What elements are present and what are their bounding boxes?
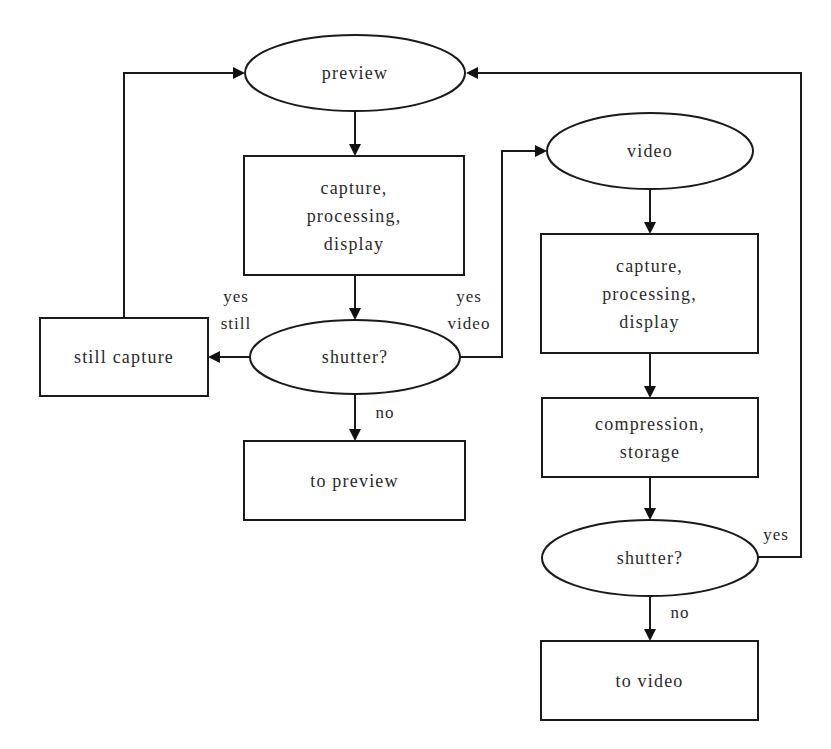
- flowchart-diagram: previewcapture,processing,displayshutter…: [0, 0, 831, 749]
- edge-shutter1-to-topreview: [349, 394, 361, 441]
- node-label: display: [619, 312, 679, 332]
- node-to-preview: to preview: [244, 441, 465, 520]
- node-label: video: [627, 141, 673, 161]
- edge-preview-to-capture: [349, 111, 361, 156]
- node-label: display: [324, 234, 384, 254]
- node-label: compression,: [595, 414, 705, 434]
- edge-label-text: yes: [456, 287, 482, 306]
- node-label: to preview: [310, 471, 398, 491]
- node-video: video: [547, 113, 753, 189]
- node-still-capture: still capture: [40, 318, 208, 396]
- arrowhead-icon: [535, 145, 547, 157]
- arrowhead-icon: [233, 67, 245, 79]
- edge-label-text: no: [376, 403, 395, 422]
- process-box: [542, 398, 758, 477]
- arrowhead-icon: [466, 67, 478, 79]
- arrowhead-icon: [644, 629, 656, 641]
- node-compression: compression,storage: [542, 398, 758, 477]
- edge-label-text: no: [671, 603, 690, 622]
- edge-capture-to-compression: [644, 353, 656, 398]
- edge-label-text: video: [448, 314, 491, 333]
- edge-label-text: yes: [223, 287, 249, 306]
- node-to-video: to video: [541, 641, 758, 720]
- edge-shutter2-to-tovideo: [644, 596, 656, 641]
- node-label: shutter?: [617, 548, 684, 568]
- node-preview: preview: [245, 35, 465, 111]
- arrowhead-icon: [208, 351, 220, 363]
- edge-shutter1-to-still: [208, 351, 250, 363]
- node-label: still capture: [74, 347, 174, 367]
- connector-line: [124, 73, 233, 318]
- edge-label-text: still: [221, 314, 252, 333]
- edge-label-no-preview: no: [376, 403, 395, 422]
- edge-label-no-video: no: [671, 603, 690, 622]
- arrowhead-icon: [349, 144, 361, 156]
- node-label: storage: [620, 442, 680, 462]
- node-label: capture,: [320, 178, 387, 198]
- edge-label-yes-loop: yes: [763, 525, 789, 544]
- node-preview-capture: capture,processing,display: [244, 156, 464, 275]
- node-label: preview: [322, 63, 388, 83]
- edge-capture-to-shutter1: [349, 275, 361, 320]
- edge-label-yes-still: yesstill: [221, 287, 252, 333]
- edge-still-to-preview: [124, 67, 245, 318]
- arrowhead-icon: [349, 308, 361, 320]
- node-shutter-2: shutter?: [542, 520, 758, 596]
- node-label: shutter?: [322, 347, 389, 367]
- arrowhead-icon: [644, 222, 656, 234]
- edge-label-yes-video: yesvideo: [448, 287, 491, 333]
- node-shutter-1: shutter?: [250, 320, 460, 394]
- edge-video-to-capture: [644, 189, 656, 234]
- arrowhead-icon: [644, 508, 656, 520]
- edge-compression-to-shutter2: [644, 477, 656, 520]
- node-label: to video: [615, 671, 683, 691]
- node-label: processing,: [602, 284, 697, 304]
- node-video-capture: capture,processing,display: [541, 234, 758, 353]
- arrowhead-icon: [349, 429, 361, 441]
- node-label: processing,: [307, 206, 402, 226]
- arrowhead-icon: [644, 386, 656, 398]
- edge-label-text: yes: [763, 525, 789, 544]
- node-label: capture,: [616, 256, 683, 276]
